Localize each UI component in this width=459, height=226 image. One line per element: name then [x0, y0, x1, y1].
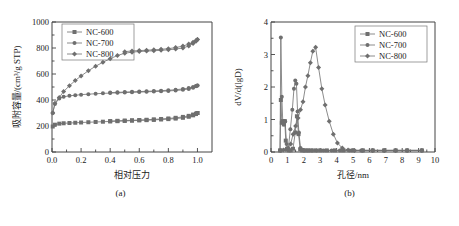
data-point [67, 94, 71, 98]
x-tick-label: 0.6 [134, 155, 145, 165]
data-point [100, 60, 105, 65]
legend-marker-nc-700 [366, 43, 370, 47]
legend-marker-nc-700 [73, 41, 77, 45]
data-point [159, 117, 163, 121]
x-tick-label: 0.4 [105, 155, 116, 165]
data-point [115, 53, 120, 58]
legend-label-nc-800: NC-800 [86, 49, 113, 59]
data-point [79, 93, 83, 97]
data-point [297, 131, 301, 135]
x-tick-label: 0 [269, 155, 273, 165]
data-point [108, 91, 112, 95]
data-point [290, 108, 294, 112]
data-point [94, 92, 98, 96]
data-point [62, 121, 66, 125]
x-axis-title: 相对压力 [114, 169, 150, 180]
data-point [310, 148, 314, 152]
legend: NC-600NC-700NC-800 [355, 26, 427, 62]
panel-b-caption: (b) [235, 188, 459, 198]
data-point [123, 119, 127, 123]
data-point [130, 118, 134, 122]
data-point [152, 89, 156, 93]
legend-label-nc-700: NC-700 [86, 38, 113, 48]
x-tick-label: 0.8 [163, 155, 174, 165]
data-point [101, 91, 105, 95]
legend-marker-nc-600 [73, 30, 77, 34]
y-tick-label: 4 [264, 17, 269, 27]
y-axis-title: 吸附容量/(cm³/g STP) [11, 46, 22, 129]
x-tick-label: 0.2 [76, 155, 87, 165]
data-point [279, 36, 283, 40]
data-point [174, 88, 178, 92]
data-point [166, 88, 170, 92]
data-point [331, 132, 336, 137]
data-point [108, 119, 112, 123]
data-point [50, 111, 55, 116]
y-tick-label: 600 [36, 69, 49, 79]
data-point [145, 89, 149, 93]
data-point [73, 121, 77, 125]
x-tick-label: 2 [302, 155, 306, 165]
data-point [308, 60, 313, 65]
x-tick-label: 7 [384, 155, 388, 165]
data-point [73, 93, 77, 97]
data-point [115, 119, 119, 123]
data-point [316, 65, 321, 70]
data-point [123, 90, 127, 94]
x-tick-label: 10 [431, 155, 440, 165]
data-point [306, 148, 310, 152]
data-point [166, 116, 170, 120]
legend-marker-nc-800 [365, 54, 370, 59]
y-tick-label: 400 [36, 95, 49, 105]
data-point [288, 127, 292, 131]
data-point [67, 121, 71, 125]
data-point [313, 45, 318, 50]
data-point [93, 64, 98, 69]
data-point [115, 90, 119, 94]
y-axis-title: dV/d(lgD) [233, 68, 243, 106]
x-tick-label: 1 [285, 155, 289, 165]
data-point [151, 47, 156, 52]
y-tick-label: 2 [264, 82, 268, 92]
data-point [101, 120, 105, 124]
data-point [280, 95, 284, 99]
data-point [294, 82, 298, 86]
data-point [300, 99, 305, 104]
data-point [62, 95, 66, 99]
data-point [137, 118, 141, 122]
y-tick-label: 3 [264, 50, 268, 60]
series-nc-700 [51, 83, 200, 115]
data-point [130, 90, 134, 94]
distribution-curve [281, 47, 422, 150]
data-point [330, 148, 334, 152]
data-point [53, 123, 57, 127]
data-point [181, 115, 185, 119]
x-tick-label: 8 [400, 155, 404, 165]
data-point [79, 120, 83, 124]
data-point [137, 48, 142, 53]
legend-label-nc-600: NC-600 [86, 27, 113, 37]
data-point [305, 73, 310, 78]
x-tick-label: 9 [416, 155, 420, 165]
data-point [187, 86, 191, 90]
x-tick-label: 5 [351, 155, 355, 165]
legend-marker-nc-800 [72, 52, 77, 57]
series-nc-600 [51, 111, 200, 129]
data-point [191, 85, 195, 89]
data-point [285, 142, 289, 146]
y-tick-label: 800 [36, 43, 49, 53]
data-point [144, 48, 149, 53]
data-point [191, 113, 195, 117]
panel-b: 01234012345678910孔径/nmdV/d(lgD)NC-600NC-… [229, 0, 458, 226]
data-point [145, 118, 149, 122]
data-point [291, 147, 295, 151]
data-point [94, 120, 98, 124]
legend-marker-nc-600 [366, 32, 370, 36]
data-point [152, 117, 156, 121]
data-point [174, 116, 178, 120]
legend-label-nc-800: NC-800 [379, 51, 406, 61]
data-point [283, 119, 287, 123]
panel-a-caption: (a) [6, 188, 235, 198]
x-tick-label: 3 [318, 155, 322, 165]
data-point [321, 148, 325, 152]
